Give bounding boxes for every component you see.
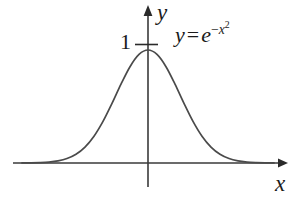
y-axis-arrowhead bbox=[144, 5, 153, 16]
y-axis-label: y bbox=[157, 1, 167, 24]
x-axis bbox=[13, 159, 288, 168]
equation-exponent: −x2 bbox=[211, 22, 230, 37]
y-axis bbox=[144, 5, 153, 187]
x-axis-arrowhead bbox=[278, 159, 288, 168]
x-axis-label: x bbox=[275, 172, 285, 195]
equation-exponent-power: 2 bbox=[225, 19, 230, 30]
plot-svg bbox=[0, 0, 295, 204]
equation-base: e bbox=[201, 22, 211, 47]
equation-equals-sign: = bbox=[185, 22, 201, 47]
equation-exponent-minus: − bbox=[211, 22, 219, 37]
equation-label: y=e−x2 bbox=[175, 24, 230, 46]
y-tick-label-one: 1 bbox=[120, 31, 131, 53]
equation-lhs: y bbox=[175, 22, 185, 47]
gaussian-figure-canvas: y x 1 y=e−x2 bbox=[0, 0, 295, 204]
